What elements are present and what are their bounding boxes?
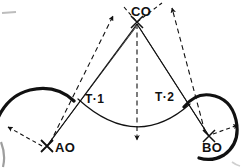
corner-artifact-bottom-left — [1, 142, 4, 167]
corner-artifact-top-left — [2, 12, 16, 13]
solid-radius-lines — [47, 24, 209, 146]
label-center-left: AO — [55, 140, 75, 155]
label-center-top: CO — [131, 4, 151, 19]
dashed-radius-bo-right — [213, 125, 238, 134]
reverse-curve-diagram: CO T·1 T·2 AO BO — [0, 0, 242, 168]
dashed-radius-ao-left — [8, 127, 42, 146]
corner-artifact-bottom-right — [232, 162, 240, 166]
marker-ao — [41, 140, 53, 152]
x-cross-icon — [41, 140, 53, 152]
label-tangent-right: T·2 — [155, 90, 174, 104]
label-center-right: BO — [202, 140, 222, 155]
figure-canvas: CO T·1 T·2 AO BO — [0, 0, 242, 168]
dashed-arrow-ao-upper-left — [50, 16, 113, 143]
label-tangent-left: T·1 — [85, 92, 104, 106]
